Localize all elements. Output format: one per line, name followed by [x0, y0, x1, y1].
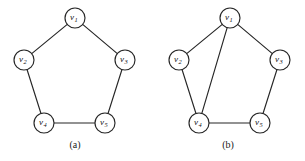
graph-node-a-v3: v3: [115, 50, 135, 70]
graph-caption-a: (a): [69, 139, 80, 151]
graph-node-b-v3: v3: [270, 50, 290, 70]
graph-edge-b-v2-v4: [182, 70, 196, 114]
graph-node-b-v1: v1: [220, 8, 240, 28]
graph-edge-b-v1-v4: [202, 28, 227, 114]
graph-node-b-v2: v2: [169, 50, 189, 70]
graph-edge-a-v2-v4: [27, 70, 41, 114]
graph-edge-a-v1-v3: [83, 24, 118, 53]
figure-container: v1v2v3v4v5v1v2v3v4v5 (a)(b): [0, 0, 305, 161]
graph-figure-svg: v1v2v3v4v5v1v2v3v4v5 (a)(b): [0, 0, 305, 161]
nodes-layer: v1v2v3v4v5v1v2v3v4v5: [14, 8, 290, 133]
graph-edge-a-v3-v5: [108, 70, 122, 114]
graph-node-a-v1: v1: [65, 8, 85, 28]
edges-layer: [27, 24, 277, 123]
graph-node-a-v4: v4: [34, 113, 54, 133]
graph-edge-b-v3-v5: [263, 70, 277, 114]
graph-edge-b-v1-v2: [187, 24, 223, 53]
graph-node-b-v4: v4: [189, 113, 209, 133]
graph-node-a-v5: v5: [95, 113, 115, 133]
graph-caption-b: (b): [222, 139, 234, 151]
captions-layer: (a)(b): [69, 139, 233, 151]
graph-edge-b-v1-v3: [238, 24, 273, 53]
graph-edge-a-v1-v2: [32, 24, 68, 53]
graph-node-a-v2: v2: [14, 50, 34, 70]
graph-node-b-v5: v5: [250, 113, 270, 133]
